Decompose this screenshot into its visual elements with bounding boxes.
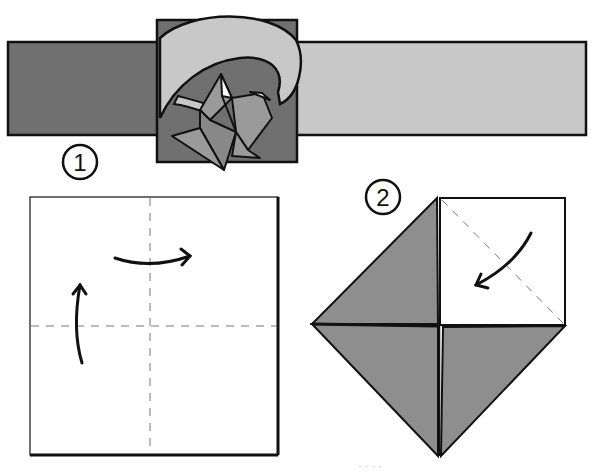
banner-right-strip (296, 42, 586, 135)
step-2-flap-bottom-left (312, 324, 438, 456)
step-1-number: 1 (73, 149, 86, 176)
step-2-number: 2 (376, 184, 389, 211)
step-2: 2 (312, 180, 565, 456)
step-2-flap-bottom-right (441, 326, 565, 456)
origami-diagram: 1 2 · · · · (0, 0, 592, 474)
step-1: 1 (30, 145, 278, 455)
banner (8, 17, 586, 171)
step-2-white-quarter (440, 198, 565, 325)
banner-left-strip (8, 42, 160, 135)
step-2-horizontal-edge (312, 324, 438, 326)
step-2-flap-top-left (312, 198, 438, 324)
caption: · · · · (358, 460, 382, 472)
